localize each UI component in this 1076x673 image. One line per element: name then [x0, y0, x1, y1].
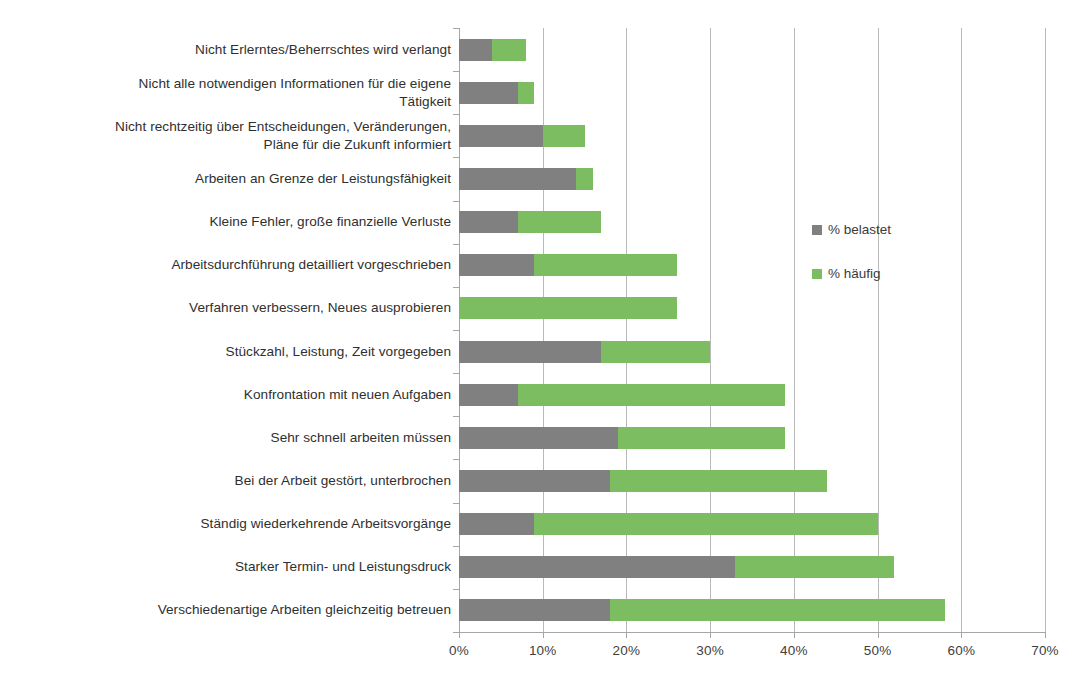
- legend-label-haeufig: % häufig: [828, 266, 881, 281]
- y-axis-tick: [453, 459, 459, 460]
- bar-row: [0, 556, 1076, 578]
- bar-row: [0, 297, 1076, 319]
- gridline: [543, 28, 544, 632]
- bar-segment-belastet: [459, 254, 534, 276]
- bar-segment-haeufig: [534, 513, 877, 535]
- bar-row: [0, 82, 1076, 104]
- bar-segment-haeufig: [518, 82, 535, 104]
- x-axis-tick-label: 70%: [1015, 643, 1075, 658]
- gridline: [961, 28, 962, 632]
- bar-segment-belastet: [459, 513, 534, 535]
- bar-segment-haeufig: [601, 341, 710, 363]
- bar-chart: 0%10%20%30%40%50%60%70% Nicht Erlerntes/…: [0, 0, 1076, 673]
- bar-segment-haeufig: [576, 168, 593, 190]
- bar-segment-belastet: [459, 211, 518, 233]
- y-axis-tick: [453, 416, 459, 417]
- bar-segment-haeufig: [618, 427, 785, 449]
- bar-row: [0, 168, 1076, 190]
- bar-segment-haeufig: [459, 297, 677, 319]
- x-axis-tick: [710, 632, 711, 638]
- y-axis-tick: [453, 287, 459, 288]
- gridline: [1045, 28, 1046, 632]
- bar-segment-belastet: [459, 168, 576, 190]
- x-axis-tick-label: 40%: [764, 643, 824, 658]
- x-axis-tick-label: 20%: [596, 643, 656, 658]
- bar-segment-belastet: [459, 125, 543, 147]
- bar-segment-haeufig: [543, 125, 585, 147]
- bar-segment-haeufig: [534, 254, 676, 276]
- bar-segment-belastet: [459, 82, 518, 104]
- bar-segment-haeufig: [518, 384, 786, 406]
- bar-row: [0, 39, 1076, 61]
- x-axis-tick: [626, 632, 627, 638]
- y-axis-tick: [453, 201, 459, 202]
- bar-row: [0, 513, 1076, 535]
- legend-item-haeufig: % häufig: [812, 266, 881, 281]
- y-axis-tick: [453, 373, 459, 374]
- x-axis-tick-label: 0%: [429, 643, 489, 658]
- bar-segment-haeufig: [610, 599, 945, 621]
- x-axis-tick-label: 30%: [680, 643, 740, 658]
- y-axis-tick: [453, 114, 459, 115]
- bar-row: [0, 254, 1076, 276]
- x-axis-tick-label: 10%: [513, 643, 573, 658]
- legend-item-belastet: % belastet: [812, 222, 891, 237]
- gridline: [878, 28, 879, 632]
- legend-label-belastet: % belastet: [828, 222, 891, 237]
- bar-segment-haeufig: [735, 556, 894, 578]
- gridline: [794, 28, 795, 632]
- plot-area: [459, 28, 1045, 632]
- y-axis-tick: [453, 244, 459, 245]
- bar-row: [0, 341, 1076, 363]
- x-axis-line: [459, 632, 1046, 633]
- bar-segment-haeufig: [518, 211, 602, 233]
- legend-swatch-belastet: [812, 225, 822, 235]
- x-axis-tick: [459, 632, 460, 638]
- x-axis-tick: [543, 632, 544, 638]
- y-axis-tick: [453, 546, 459, 547]
- x-axis-tick-label: 50%: [848, 643, 908, 658]
- bar-segment-belastet: [459, 384, 518, 406]
- y-axis-tick: [453, 71, 459, 72]
- gridline: [626, 28, 627, 632]
- bar-segment-haeufig: [610, 470, 828, 492]
- x-axis-tick: [1045, 632, 1046, 638]
- x-axis-tick: [794, 632, 795, 638]
- bar-segment-belastet: [459, 470, 610, 492]
- bar-segment-haeufig: [492, 39, 525, 61]
- y-axis-tick: [453, 157, 459, 158]
- gridline: [710, 28, 711, 632]
- bar-segment-belastet: [459, 556, 735, 578]
- bar-row: [0, 384, 1076, 406]
- x-axis-tick: [878, 632, 879, 638]
- x-axis-tick-label: 60%: [931, 643, 991, 658]
- bar-segment-belastet: [459, 599, 610, 621]
- bar-row: [0, 599, 1076, 621]
- x-axis-tick: [961, 632, 962, 638]
- bar-segment-belastet: [459, 341, 601, 363]
- bar-segment-belastet: [459, 39, 492, 61]
- bar-segment-belastet: [459, 427, 618, 449]
- bar-row: [0, 427, 1076, 449]
- legend-swatch-haeufig: [812, 269, 822, 279]
- y-axis-tick: [453, 589, 459, 590]
- bar-row: [0, 211, 1076, 233]
- y-axis-tick: [453, 330, 459, 331]
- y-axis-tick: [453, 503, 459, 504]
- bar-row: [0, 470, 1076, 492]
- bar-row: [0, 125, 1076, 147]
- y-axis-tick: [453, 28, 459, 29]
